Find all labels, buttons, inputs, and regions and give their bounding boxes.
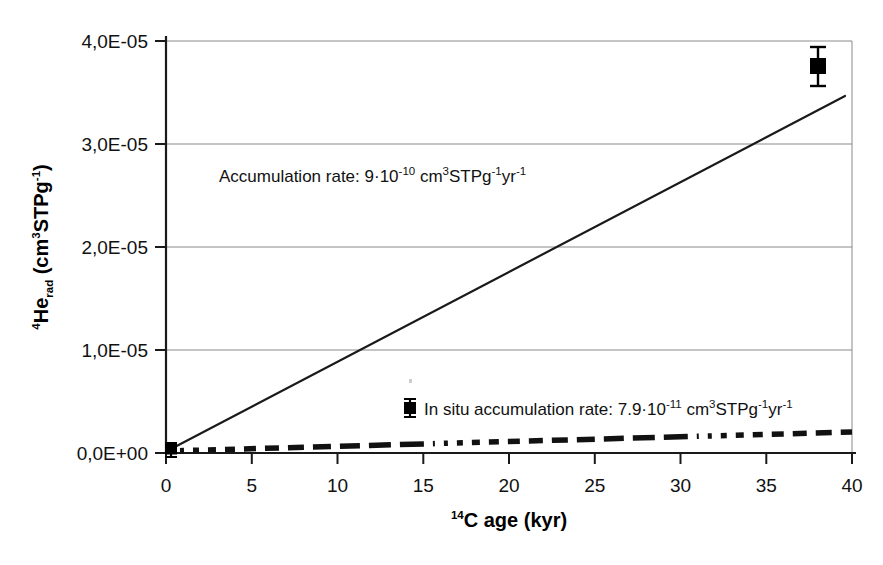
in-situ-label-mid3: yr [768,400,783,419]
x-axis-ticks [166,453,852,464]
in-situ-accumulation-rate-label: In situ accumulation rate: 7.9·10-11 cm3… [424,398,793,419]
in-situ-label-lead: In situ accumulation rate: 7.9·10 [424,400,666,419]
y-axis-title-unit-close: ) [30,164,52,171]
accumulation-rate-label-exp1: -10 [399,165,416,177]
y-axis-title-unit-open: (cm [30,239,52,280]
scan-artifact-speck [409,379,412,383]
x-tick-label-15: 15 [413,475,434,496]
accumulation-rate-label-mid3: yr [502,167,517,186]
accumulation-rate-label-exp4: -1 [516,165,526,177]
x-tick-labels: 0 5 10 15 20 25 30 35 40 [161,475,863,496]
y-axis-title: 4Herad (cm3STPg-1) [30,164,55,329]
x-tick-label-30: 30 [670,475,691,496]
marker-square [404,402,416,414]
y-axis-title-unit-mid: STPg [30,181,52,232]
y-tick-label-3: 3,0E-05 [81,134,148,155]
y-tick-label-1: 1,0E-05 [81,340,148,361]
x-axis-title-superscript: 14 [451,509,464,521]
accumulation-rate-label-exp3: -1 [492,165,502,177]
marker-square [810,58,826,74]
accumulation-rate-label-mid: cm [415,167,442,186]
x-tick-label-25: 25 [584,475,605,496]
y-tick-label-0: 0,0E+00 [77,443,148,464]
accumulation-rate-label-mid2: STPg [449,167,492,186]
in-situ-label-mid2: STPg [716,400,759,419]
x-axis-title-main: C age (kyr) [464,509,567,531]
accumulation-rate-label-lead: Accumulation rate: 9·10 [219,167,399,186]
x-tick-label-10: 10 [327,475,348,496]
y-axis-title-element: He [30,298,52,324]
x-tick-label-0: 0 [161,475,172,496]
in-situ-label-mid: cm [682,400,709,419]
x-tick-label-5: 5 [247,475,258,496]
chart-figure: 4,0E-05 3,0E-05 2,0E-05 1,0E-05 0,0E+00 … [0,0,883,565]
y-axis-title-unit-superscript2: -1 [30,170,42,181]
y-axis-ticks [155,41,166,453]
y-tick-label-2: 2,0E-05 [81,237,148,258]
x-axis-title: 14C age (kyr) [451,509,567,531]
accumulation-rate-label: Accumulation rate: 9·10-10 cm3STPg-1yr-1 [219,165,526,186]
x-tick-label-20: 20 [498,475,519,496]
marker-square [165,444,177,455]
y-tick-label-4: 4,0E-05 [81,31,148,52]
in-situ-label-exp1: -11 [666,398,682,410]
in-situ-label-exp3: -1 [758,398,768,410]
x-tick-label-40: 40 [841,475,862,496]
y-tick-labels: 4,0E-05 3,0E-05 2,0E-05 1,0E-05 0,0E+00 [77,31,148,464]
x-tick-label-35: 35 [756,475,777,496]
in-situ-label-exp4: -1 [782,398,792,410]
y-axis-title-subscript: rad [43,280,55,298]
chart-canvas: 4,0E-05 3,0E-05 2,0E-05 1,0E-05 0,0E+00 … [0,0,883,565]
